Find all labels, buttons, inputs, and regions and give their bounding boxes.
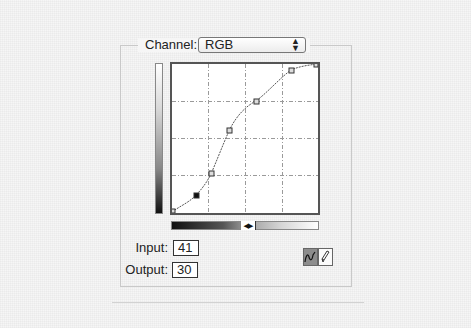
curve-svg (172, 64, 318, 213)
curve-tool-icon (304, 249, 317, 265)
channel-popup[interactable]: RGB ▲▼ (198, 37, 306, 53)
control-point (172, 209, 175, 213)
output-label: Output: (108, 262, 168, 278)
curve-graph[interactable] (170, 62, 320, 215)
output-gradient-bar (155, 63, 163, 214)
control-point (289, 68, 294, 73)
up-down-arrows-icon: ▲▼ (291, 38, 299, 52)
channel-label: Channel: (145, 37, 197, 53)
input-field[interactable]: 41 (173, 240, 199, 256)
grid-lines (172, 64, 318, 213)
control-point (254, 99, 259, 104)
control-point (209, 171, 214, 176)
control-point-selected (194, 193, 199, 198)
bottom-divider (112, 302, 364, 303)
pencil-tool-button[interactable] (318, 248, 333, 266)
curve-tool-button[interactable] (303, 248, 318, 266)
input-label: Input: (108, 240, 168, 256)
output-field[interactable]: 30 (172, 262, 198, 278)
control-point (227, 128, 232, 133)
control-point (314, 64, 318, 67)
swap-arrows-icon[interactable]: ◀▶ (240, 221, 256, 230)
channel-popup-value: RGB (205, 38, 233, 52)
input-gradient-bar: ◀▶ (171, 221, 319, 230)
pencil-tool-icon (319, 249, 332, 265)
